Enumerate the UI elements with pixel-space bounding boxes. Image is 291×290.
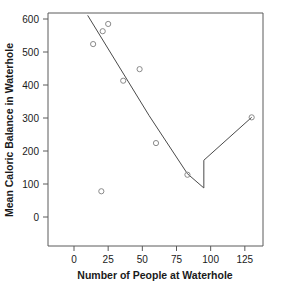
x-tick-label: 100 [202, 254, 219, 265]
y-tick-label: 300 [22, 113, 39, 124]
x-tick-label: 125 [236, 254, 253, 265]
data-point [91, 41, 96, 46]
y-axis-title: Mean Caloric Balance in Waterhole [3, 43, 15, 217]
data-point [137, 67, 142, 72]
frame-border [48, 13, 263, 246]
fitted-line [88, 15, 252, 188]
y-tick-label: 400 [22, 80, 39, 91]
x-tick-label: 50 [137, 254, 149, 265]
x-axis-title: Number of People at Waterhole [77, 269, 233, 281]
y-tick-label: 0 [33, 212, 39, 223]
data-point [121, 78, 126, 83]
fit-line-group [88, 15, 252, 188]
data-points-group [91, 21, 255, 194]
chart-page: 0100200300400500600 0255075100125 Number… [0, 0, 291, 290]
x-tick-label: 0 [71, 254, 77, 265]
y-tick-label: 100 [22, 179, 39, 190]
scatter-plot: 0100200300400500600 0255075100125 Number… [0, 0, 291, 290]
data-point [100, 29, 105, 34]
y-tick-label: 500 [22, 47, 39, 58]
y-axis-ticks: 0100200300400500600 [22, 14, 48, 223]
y-tick-label: 600 [22, 14, 39, 25]
x-tick-label: 25 [103, 254, 115, 265]
plot-frame [48, 13, 263, 246]
y-tick-label: 200 [22, 146, 39, 157]
data-point [99, 189, 104, 194]
data-point [153, 140, 158, 145]
data-point [106, 21, 111, 26]
x-axis-ticks: 0255075100125 [71, 246, 253, 265]
x-tick-label: 75 [171, 254, 183, 265]
